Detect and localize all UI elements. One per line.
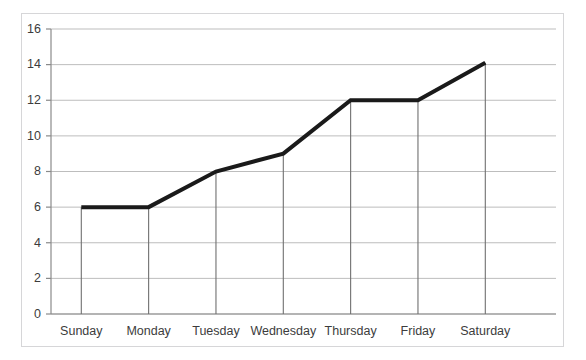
- x-axis-tick-label: Saturday: [460, 324, 511, 338]
- y-axis-tick-label: 12: [27, 93, 41, 107]
- y-axis-labels: 0246810121416: [27, 22, 41, 321]
- y-axis-tick-label: 8: [34, 164, 41, 178]
- y-gridlines: [51, 29, 556, 314]
- x-axis-tick-label: Wednesday: [250, 324, 317, 338]
- line-chart: 0246810121416 SundayMondayTuesdayWednesd…: [0, 0, 586, 360]
- y-axis-tick-label: 4: [34, 236, 41, 250]
- y-axis-tick-label: 14: [27, 57, 41, 71]
- y-axis-tick-label: 10: [27, 129, 41, 143]
- y-axis-tick-label: 6: [34, 200, 41, 214]
- x-axis-labels: SundayMondayTuesdayWednesdayThursdayFrid…: [60, 324, 511, 338]
- x-axis-tick-label: Monday: [126, 324, 171, 338]
- y-axis-tick-label: 16: [27, 22, 41, 36]
- x-axis-tick-label: Sunday: [60, 324, 103, 338]
- y-axis-tick-label: 0: [34, 307, 41, 321]
- y-tick-marks: [46, 29, 51, 314]
- x-axis-tick-label: Tuesday: [192, 324, 240, 338]
- y-axis-tick-label: 2: [34, 271, 41, 285]
- x-axis-tick-label: Thursday: [325, 324, 378, 338]
- x-axis-tick-label: Friday: [401, 324, 436, 338]
- chart-plot-area: 0246810121416 SundayMondayTuesdayWednesd…: [0, 0, 586, 360]
